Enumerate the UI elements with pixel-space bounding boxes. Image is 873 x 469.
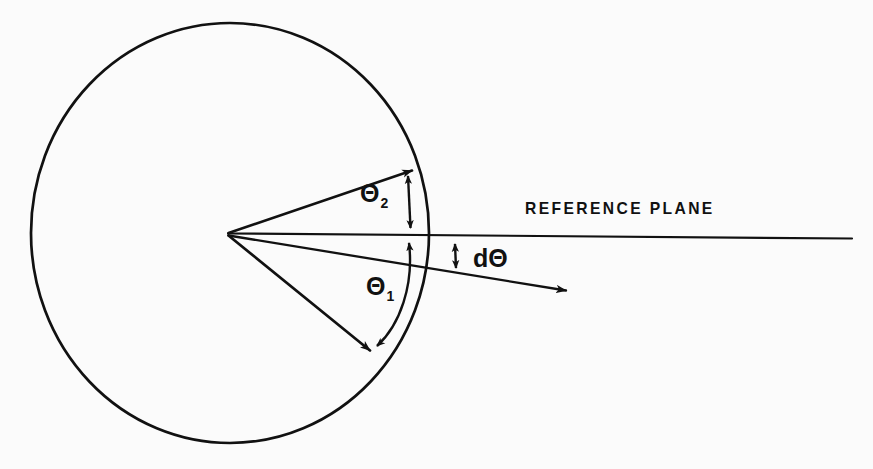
theta-2-measure-arrow — [408, 176, 411, 228]
theta-2-glyph: Θ — [360, 179, 379, 207]
theta-2-label: Θ2 — [360, 181, 387, 206]
theta-1-ray — [229, 236, 371, 351]
reference-plane-label: REFERENCE PLANE — [525, 200, 715, 217]
d-theta-label: dΘ — [473, 246, 508, 271]
theta-1-label: Θ1 — [366, 274, 393, 299]
diagram-canvas — [0, 0, 873, 469]
d-theta-ray — [229, 236, 567, 291]
figure-root: REFERENCE PLANE Θ2 Θ1 dΘ — [0, 0, 873, 469]
d-theta-measure-arrow — [455, 244, 456, 268]
reference-plane-line — [228, 234, 852, 239]
theta-2-subscript: 2 — [380, 195, 388, 211]
theta-1-glyph: Θ — [366, 272, 385, 300]
theta-1-subscript: 1 — [386, 288, 394, 304]
